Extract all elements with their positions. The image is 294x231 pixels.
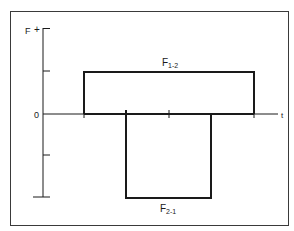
y-axis: F + 0 — [25, 24, 50, 197]
pulse-f1-2-label: F1-2 — [162, 57, 178, 69]
pulse-f1-2-outline — [84, 72, 254, 114]
y-axis-label: F — [25, 26, 31, 36]
y-axis-plus-marker: + — [34, 24, 40, 35]
diagram-frame — [11, 12, 289, 226]
y-axis-zero-label: 0 — [34, 110, 39, 120]
pulse-f2-1: F2-1 — [126, 110, 211, 215]
pulse-f1-2: F1-2 — [84, 57, 254, 114]
x-axis-label: t — [281, 111, 284, 120]
pulse-f1-2-label-sub: 1-2 — [168, 62, 178, 69]
pulse-f2-1-label: F2-1 — [160, 203, 176, 215]
pulse-f2-1-outline — [126, 110, 211, 198]
pulse-f2-1-label-sub: 2-1 — [166, 208, 176, 215]
force-time-diagram: F + 0 t F1-2 F2-1 — [0, 0, 294, 231]
